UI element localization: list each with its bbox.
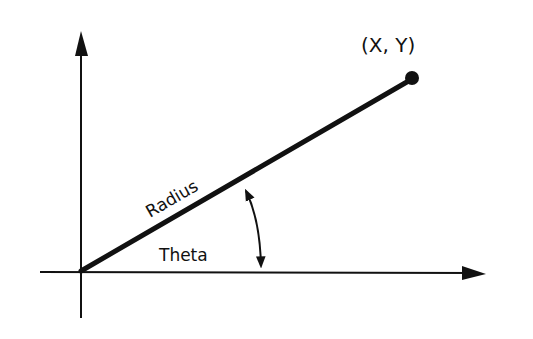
radius-line: [81, 79, 412, 271]
y-axis: [75, 31, 88, 318]
endpoint-dot: [405, 71, 419, 85]
x-axis: [40, 266, 486, 280]
polar-coordinate-diagram: (X, Y) Radius Theta: [0, 0, 533, 339]
x-axis-arrowhead-icon: [462, 266, 486, 280]
theta-arc-icon: [246, 191, 261, 266]
theta-label: Theta: [158, 245, 208, 265]
radius-label: Radius: [142, 176, 201, 222]
y-axis-arrowhead-icon: [75, 31, 88, 56]
point-label: (X, Y): [361, 33, 415, 57]
